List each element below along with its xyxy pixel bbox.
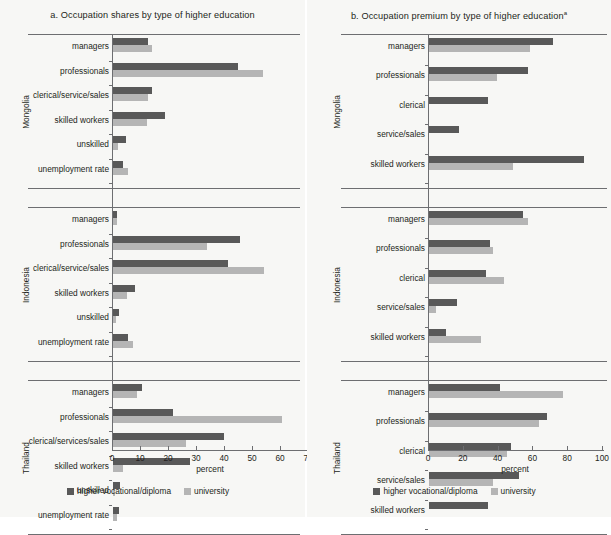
panel-b-legend: higher vocational/diplomauniversity	[307, 486, 611, 496]
bar-university	[429, 163, 513, 170]
bar-vocational	[429, 38, 553, 45]
x-axis-tick-label: 50	[237, 453, 267, 463]
x-axis-tick-label: 40	[209, 453, 239, 463]
bar-vocational	[113, 334, 128, 341]
bar-university	[429, 336, 481, 343]
x-axis-line	[112, 450, 310, 451]
y-axis-line	[428, 34, 429, 450]
panel-b-title: b. Occupation premium by type of higher …	[307, 10, 611, 21]
bar-vocational	[113, 309, 119, 316]
bar-university	[429, 74, 497, 81]
bar-vocational	[113, 384, 142, 391]
bar-vocational	[429, 384, 500, 391]
x-axis-tick	[567, 446, 568, 450]
country-label-thailand: Thailand	[20, 384, 30, 531]
legend-swatch-dark	[67, 488, 74, 495]
bar-university	[113, 416, 282, 423]
category-axis-tick	[109, 505, 112, 506]
bar-vocational	[113, 285, 135, 292]
category-axis-tick	[109, 529, 112, 530]
x-axis-tick-label: 10	[125, 453, 155, 463]
panel-a-legend: higher vocational/diplomauniversity	[0, 486, 305, 496]
bar-vocational	[113, 409, 173, 416]
x-axis-tick	[224, 446, 225, 450]
bar-vocational	[113, 38, 148, 45]
group-separator-top	[28, 207, 300, 208]
x-axis-tick	[140, 446, 141, 450]
x-axis-tick	[252, 446, 253, 450]
bar-vocational	[429, 299, 457, 306]
bar-university	[113, 341, 133, 348]
group-separator-bottom	[341, 361, 607, 362]
legend-entry: higher vocational/diploma	[373, 486, 477, 496]
bar-vocational	[429, 211, 523, 218]
x-axis-tick-label: 20	[448, 453, 478, 463]
bar-vocational	[113, 63, 238, 70]
bar-vocational	[113, 112, 165, 119]
bar-university	[113, 267, 264, 274]
x-axis-tick-label: 20	[153, 453, 183, 463]
bar-university	[113, 514, 117, 521]
bar-vocational	[429, 67, 528, 74]
bar-university	[429, 420, 539, 427]
bar-university	[113, 168, 128, 175]
bar-vocational	[113, 507, 119, 514]
panel-a-plot: managersprofessionalsclerical/service/sa…	[0, 26, 305, 451]
x-axis-title: percent	[428, 464, 602, 474]
panel-a-title: a. Occupation shares by type of higher e…	[0, 10, 305, 20]
bar-vocational	[113, 260, 228, 267]
legend-swatch-light	[184, 488, 191, 495]
bar-vocational	[113, 236, 240, 243]
x-axis-tick-label: 30	[181, 453, 211, 463]
legend-entry: university	[184, 486, 229, 496]
bar-university	[429, 45, 530, 52]
x-axis-tick-label: 100	[587, 453, 611, 463]
bar-university	[429, 306, 436, 313]
x-axis-tick-label: 0	[413, 453, 443, 463]
bar-university	[113, 440, 186, 447]
bar-university	[113, 119, 147, 126]
legend-label: higher vocational/diploma	[383, 486, 477, 496]
x-axis-tick-label: 60	[265, 453, 295, 463]
x-axis-tick-label: 60	[517, 453, 547, 463]
legend-label: university	[194, 486, 229, 496]
y-axis-line	[112, 34, 113, 450]
legend-swatch-light	[491, 488, 498, 495]
bar-vocational	[113, 87, 152, 94]
category-axis-tick	[425, 500, 428, 501]
category-axis-tick	[109, 480, 112, 481]
x-axis-tick	[428, 446, 429, 450]
legend-label: higher vocational/diploma	[77, 486, 171, 496]
bar-vocational	[429, 240, 490, 247]
x-axis-tick	[168, 446, 169, 450]
bar-university	[429, 247, 493, 254]
x-axis-title: percent	[112, 464, 308, 474]
x-axis-tick-label: 80	[552, 453, 582, 463]
bar-vocational	[113, 161, 123, 168]
bar-vocational	[113, 211, 117, 218]
x-axis-tick	[196, 446, 197, 450]
x-axis-tick	[498, 446, 499, 450]
bar-vocational	[429, 97, 488, 104]
panel-b-plot: managersprofessionalsclericalservice/sal…	[307, 26, 611, 451]
group-separator-top	[341, 380, 607, 381]
bar-university	[113, 218, 117, 225]
bar-vocational	[113, 433, 224, 440]
bar-vocational	[429, 126, 459, 133]
x-axis-line	[428, 450, 604, 451]
bar-vocational	[429, 270, 486, 277]
group-separator-top	[341, 207, 607, 208]
bar-university	[429, 218, 528, 225]
legend-label: university	[501, 486, 536, 496]
panel-b-title-footnote-marker: a	[564, 10, 567, 16]
x-axis-tick	[463, 446, 464, 450]
group-separator-top	[28, 34, 300, 35]
panel-a-title-text: a. Occupation shares by type of higher e…	[50, 10, 255, 20]
bar-university	[113, 143, 118, 150]
bar-vocational	[429, 502, 488, 509]
bar-university	[113, 243, 207, 250]
legend-swatch-dark	[373, 488, 380, 495]
bar-university	[113, 70, 263, 77]
legend-entry: higher vocational/diploma	[67, 486, 171, 496]
